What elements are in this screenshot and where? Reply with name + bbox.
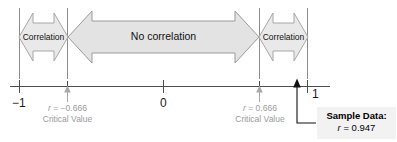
number-line-axis (10, 80, 330, 93)
critical-value-negative-caption: Critical Value (11, 114, 124, 125)
axis-label-one: 1 (312, 88, 319, 100)
critical-value-positive-caption: Critical Value (205, 114, 315, 125)
r-value-crit-pos: = 0.666 (246, 103, 277, 113)
critical-value-negative-r: r = −0.666 (11, 103, 124, 114)
correlation-number-line-figure: Correlation No correlation Correlation −… (0, 0, 397, 142)
sample-data-arrow-head (293, 79, 301, 88)
sample-data-value: r = 0.947 (323, 122, 390, 134)
critical-value-positive-r: r = 0.666 (205, 103, 315, 114)
critical-value-positive-label: r = 0.666 Critical Value (205, 103, 315, 124)
correlation-right-label: Correlation (259, 33, 308, 42)
r-value-crit-neg: = −0.666 (51, 103, 87, 113)
r-value-sample: = 0.947 (341, 122, 376, 133)
sample-data-callout: Sample Data: r = 0.947 (317, 107, 396, 139)
axis-label-zero: 0 (160, 97, 167, 109)
no-correlation-label: No correlation (68, 31, 259, 42)
sample-data-title: Sample Data: (323, 110, 390, 122)
correlation-left-label: Correlation (19, 33, 68, 42)
critical-value-negative-label: r = −0.666 Critical Value (11, 103, 124, 124)
